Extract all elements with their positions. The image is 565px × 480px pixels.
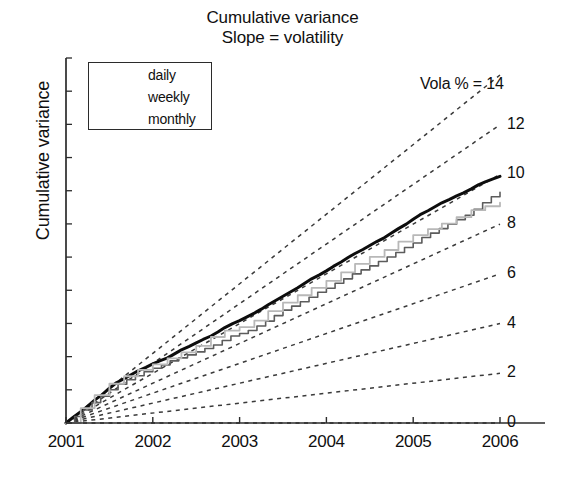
reference-line-10	[66, 174, 500, 423]
series-line-daily	[66, 176, 500, 423]
reference-line-8	[66, 224, 500, 423]
y-axis-ticks-group	[66, 58, 72, 423]
legend: daily weekly monthly	[88, 62, 212, 130]
legend-item-daily: daily	[95, 64, 213, 86]
plot-area	[0, 0, 565, 480]
vola-label-8: 8	[507, 214, 516, 232]
vola-label-10: 10	[507, 164, 524, 182]
legend-label-weekly: weekly	[148, 90, 190, 104]
legend-item-monthly: monthly	[95, 108, 213, 130]
vola-label-4: 4	[507, 314, 516, 332]
reference-line-12	[66, 125, 500, 423]
x-tick-label-2001: 2001	[48, 432, 85, 452]
figure-container: Cumulative variance Slope = volatility C…	[0, 0, 565, 480]
vola-label-0: 0	[507, 413, 516, 431]
legend-item-weekly: weekly	[95, 86, 213, 108]
x-tick-label-2003: 2003	[221, 432, 258, 452]
x-tick-label-2002: 2002	[134, 432, 171, 452]
x-tick-label-2005: 2005	[395, 432, 432, 452]
legend-label-daily: daily	[148, 68, 176, 82]
vola-label-12: 12	[507, 115, 524, 133]
legend-label-monthly: monthly	[148, 112, 196, 126]
reference-line-2	[66, 373, 500, 423]
vola-label-14: Vola % = 14	[420, 75, 504, 93]
x-tick-label-2004: 2004	[308, 432, 345, 452]
vola-label-6: 6	[507, 264, 516, 282]
data-series-group	[66, 176, 500, 423]
x-tick-label-2006: 2006	[482, 432, 519, 452]
vola-label-2: 2	[507, 363, 516, 381]
x-axis-ticks-group	[66, 417, 500, 423]
